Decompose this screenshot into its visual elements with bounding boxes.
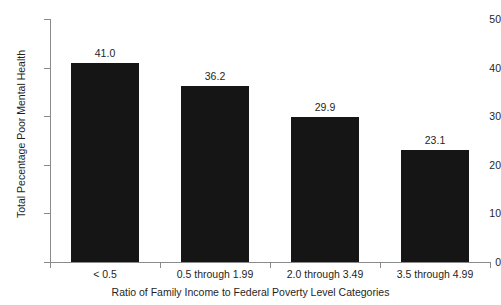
- y-axis-title: Total Pecentage Poor Mental Health: [15, 9, 27, 259]
- bar: [401, 150, 469, 262]
- bar: [181, 86, 249, 262]
- bar-value-label: 29.9: [295, 102, 355, 113]
- x-axis-category-label: 2.0 through 3.49: [265, 268, 385, 280]
- x-axis-category-label: 0.5 through 1.99: [155, 268, 275, 280]
- bar-value-label: 41.0: [75, 48, 135, 59]
- x-axis-category-label: < 0.5: [45, 268, 165, 280]
- bar: [291, 117, 359, 262]
- bar-value-label: 36.2: [185, 71, 245, 82]
- x-axis-category-label: 3.5 through 4.99: [375, 268, 495, 280]
- bar: [71, 63, 139, 262]
- x-axis-title: Ratio of Family Income to Federal Povert…: [0, 286, 501, 298]
- bar-chart: Total Pecentage Poor Mental Health 01020…: [0, 0, 501, 305]
- bar-value-label: 23.1: [405, 135, 465, 146]
